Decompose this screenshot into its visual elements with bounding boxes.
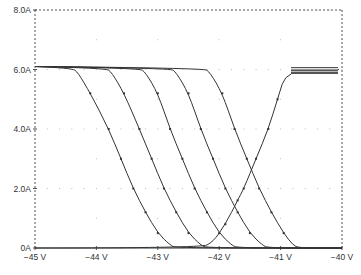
series-rising	[35, 70, 339, 249]
data-marker	[151, 158, 153, 160]
grid-dot	[47, 69, 48, 70]
chart-area: 0A2.0A4.0A6.0A8.0A −45 V−44 V−43 V−42 V−…	[0, 0, 361, 275]
grid-dot	[120, 69, 121, 70]
grid-dot	[280, 218, 281, 219]
grid-dot	[145, 129, 146, 130]
data-marker	[108, 128, 110, 130]
data-marker	[237, 199, 239, 201]
grid-dot	[170, 188, 171, 189]
grid-dot	[317, 188, 318, 189]
grid-dot	[194, 129, 195, 130]
grid-dot	[342, 69, 343, 70]
grid-dot	[329, 10, 330, 11]
grid-dot	[59, 69, 60, 70]
y-tick-label: 8.0A	[14, 5, 32, 15]
y-tick-label: 2.0A	[14, 184, 32, 194]
data-marker	[132, 188, 134, 190]
grid-dot	[157, 129, 158, 130]
grid-dot	[256, 188, 257, 189]
grid-dot	[219, 129, 220, 130]
grid-dot	[231, 188, 232, 189]
grid-dot	[120, 188, 121, 189]
grid-dot	[47, 129, 48, 130]
x-tick-label: −44 V	[85, 252, 108, 262]
grid-dot	[145, 188, 146, 189]
grid-dot	[280, 188, 281, 189]
grid-dot	[59, 188, 60, 189]
plot-series	[35, 67, 342, 249]
x-tick-label: −45 V	[24, 252, 47, 262]
data-marker	[175, 211, 177, 213]
grid-dot	[329, 129, 330, 130]
grid-dot	[182, 129, 183, 130]
data-marker	[283, 232, 285, 234]
data-marker	[123, 92, 125, 94]
grid-dot	[157, 188, 158, 189]
data-marker	[212, 158, 214, 160]
grid-dot	[219, 158, 220, 159]
legend-highlight	[291, 71, 338, 72]
grid-dot	[145, 69, 146, 70]
grid-dot	[329, 188, 330, 189]
data-marker	[258, 188, 260, 190]
grid-dot	[84, 69, 85, 70]
data-marker	[234, 128, 236, 130]
grid-dot	[292, 129, 293, 130]
grid-dot	[59, 129, 60, 130]
grid-dots	[35, 10, 343, 249]
data-marker	[249, 232, 251, 234]
y-tick-label: 6.0A	[14, 65, 32, 75]
data-marker	[224, 223, 226, 225]
data-marker	[157, 232, 159, 234]
grid-dot	[170, 10, 171, 11]
grid-dot	[133, 129, 134, 130]
data-marker	[188, 92, 190, 94]
grid-dot	[96, 158, 97, 159]
data-marker	[237, 211, 239, 213]
data-marker	[221, 92, 223, 94]
grid-dot	[96, 188, 97, 189]
grid-dot	[317, 129, 318, 130]
grid-dot	[219, 99, 220, 100]
grid-dot	[231, 129, 232, 130]
grid-dot	[256, 69, 257, 70]
data-marker	[255, 158, 257, 160]
data-marker	[200, 128, 202, 130]
y-axis: 0A2.0A4.0A6.0A8.0A	[14, 5, 38, 253]
grid-dot	[96, 69, 97, 70]
grid-dot	[96, 99, 97, 100]
grid-dot	[96, 39, 97, 40]
grid-dot	[206, 188, 207, 189]
grid-dot	[120, 129, 121, 130]
grid-dot	[231, 69, 232, 70]
grid-dot	[96, 218, 97, 219]
grid-dot	[47, 188, 48, 189]
grid-dot	[280, 39, 281, 40]
data-marker	[188, 232, 190, 234]
grid-dot	[182, 10, 183, 11]
grid-dot	[219, 69, 220, 70]
grid-dot	[280, 158, 281, 159]
grid-dot	[256, 129, 257, 130]
grid-dot	[206, 129, 207, 130]
grid-dot	[280, 129, 281, 130]
grid-dot	[243, 69, 244, 70]
plot-frame	[35, 10, 342, 248]
grid-dot	[342, 188, 343, 189]
grid-dot	[243, 129, 244, 130]
data-marker	[267, 128, 269, 130]
grid-dot	[342, 129, 343, 130]
data-marker	[206, 211, 208, 213]
grid-dot	[219, 188, 220, 189]
data-marker	[138, 128, 140, 130]
grid-dot	[194, 10, 195, 11]
cropped-caption	[0, 266, 361, 275]
data-marker	[194, 188, 196, 190]
grid-dot	[280, 99, 281, 100]
x-tick-label: −40 V	[331, 252, 354, 262]
data-marker	[120, 158, 122, 160]
data-marker	[246, 158, 248, 160]
data-marker	[224, 188, 226, 190]
grid-dot	[305, 129, 306, 130]
grid-dot	[145, 10, 146, 11]
